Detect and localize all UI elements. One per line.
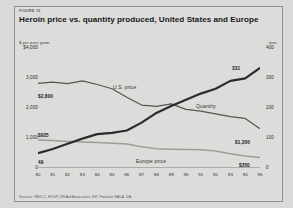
x-tick-label-90: 90 — [179, 172, 193, 177]
x-tick-label-82: 82 — [61, 172, 75, 177]
y2-tick-label-3: 100 — [266, 135, 274, 140]
series-label-europe-price: Europe price — [136, 158, 166, 164]
series-line-quantity — [38, 68, 260, 153]
y2-tick-label-0: 400 — [266, 45, 274, 50]
x-tick-label-80: 80 — [31, 172, 45, 177]
series-label-quantity: Quantity — [196, 103, 216, 109]
value-label-europe-start: $925 — [38, 133, 49, 138]
series-line-us-price — [38, 81, 260, 129]
value-label-us-start: $2,800 — [38, 94, 53, 99]
plot-area — [38, 47, 260, 168]
x-tick-label-83: 83 — [75, 172, 89, 177]
y-tick-label-3: 1,000 — [16, 135, 38, 140]
value-label-quantity-end: 331 — [232, 66, 240, 71]
y-tick-label-2: 2,000 — [16, 105, 38, 110]
y2-tick-label-1: 300 — [266, 75, 274, 80]
x-tick-label-89: 89 — [164, 172, 178, 177]
y-tick-label-4: 0 — [16, 165, 38, 170]
x-tick-label-88: 88 — [149, 172, 163, 177]
figure-title: Heroin price vs. quantity produced, Unit… — [19, 15, 273, 24]
y2-tick-label-2: 200 — [266, 105, 274, 110]
figure-number: FIGURE 15 — [19, 9, 41, 13]
y-tick-label-0: $4,000 — [16, 45, 38, 50]
value-label-europe-end: $350 — [239, 163, 250, 168]
y-tick-label-1: 3,000 — [16, 75, 38, 80]
value-label-us-end: $1,300 — [235, 140, 250, 145]
x-tick-label-91: 91 — [194, 172, 208, 177]
x-tick-label-84: 84 — [90, 172, 104, 177]
series-label-us-price: U.S. price — [113, 84, 136, 90]
figure-container: FIGURE 15 Heroin price vs. quantity prod… — [0, 0, 293, 208]
x-tick-label-95: 95 — [253, 172, 267, 177]
x-tick-label-87: 87 — [135, 172, 149, 177]
x-tick-label-92: 92 — [209, 172, 223, 177]
x-tick-label-81: 81 — [46, 172, 60, 177]
chart-svg — [38, 47, 260, 168]
value-label-quantity-start: 49 — [38, 160, 43, 165]
x-tick-label-86: 86 — [120, 172, 134, 177]
figure-source: Sources: NNICC, HCSP, UN Aid Associates,… — [19, 195, 275, 199]
x-tick-label-85: 85 — [105, 172, 119, 177]
x-tick-label-93: 93 — [223, 172, 237, 177]
y2-tick-label-4: 0 — [266, 165, 269, 170]
x-tick-label-94: 94 — [238, 172, 252, 177]
